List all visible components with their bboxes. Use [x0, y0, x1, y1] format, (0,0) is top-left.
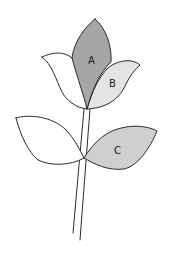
flower-diagram: A B C	[0, 0, 173, 256]
left-leaf	[16, 116, 84, 164]
label-a: A	[88, 55, 95, 66]
label-c: C	[114, 145, 121, 156]
label-b: B	[109, 78, 116, 89]
stem-right-line	[80, 109, 90, 240]
stem	[73, 109, 90, 240]
